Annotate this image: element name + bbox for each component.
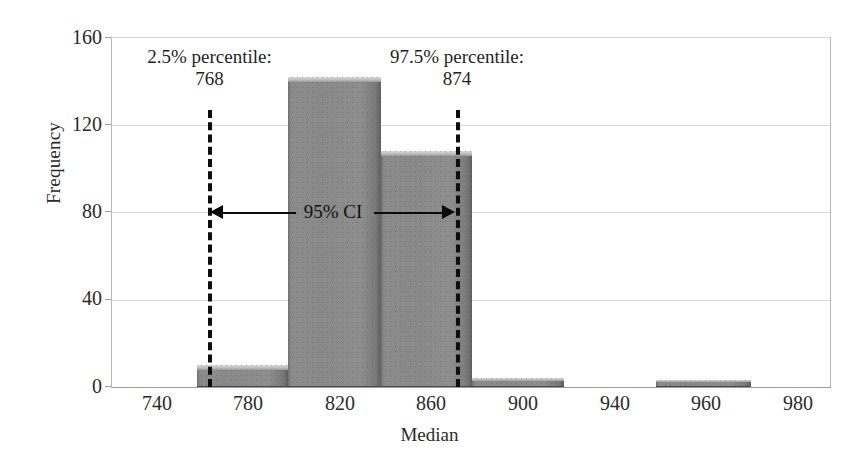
x-tick-label-860: 860	[396, 393, 466, 413]
histogram-bar	[656, 380, 751, 387]
upper-percentile-callout: 97.5% percentile: 874	[346, 46, 568, 91]
y-tick-label-80: 80	[32, 201, 102, 221]
lower-percentile-label: 2.5% percentile:	[147, 46, 272, 67]
lower-percentile-callout: 2.5% percentile: 768	[102, 46, 317, 91]
upper-percentile-line	[456, 110, 460, 387]
bar-texture	[288, 77, 381, 386]
x-tick-label-980: 980	[763, 393, 833, 413]
confidence-interval-label: 95% CI	[288, 202, 378, 222]
confidence-interval-annotation: 95% CI	[208, 202, 458, 222]
gridline-120	[112, 125, 830, 126]
x-axis-title: Median	[0, 424, 859, 446]
histogram-bar	[472, 378, 564, 387]
x-tick-label-740: 740	[122, 393, 192, 413]
y-tick-label-0: 0	[32, 376, 102, 396]
bar-texture	[656, 380, 751, 386]
lower-percentile-line	[208, 110, 212, 387]
histogram-figure: Frequency 160 120 80 40 0	[0, 0, 859, 467]
x-tick-label-900: 900	[488, 393, 558, 413]
arrow-shaft-right	[374, 212, 444, 214]
upper-percentile-label: 97.5% percentile:	[390, 46, 524, 67]
plot-area: 95% CI 2.5% percentile: 768 97.5% percen…	[111, 37, 831, 388]
x-tick-label-820: 820	[305, 393, 375, 413]
arrow-shaft-left	[222, 212, 296, 214]
y-tick-label-120: 120	[32, 114, 102, 134]
histogram-bar	[288, 77, 381, 387]
lower-percentile-value: 768	[102, 68, 317, 90]
y-tick-label-160: 160	[32, 27, 102, 47]
y-tick-label-40: 40	[32, 288, 102, 308]
x-tick-label-780: 780	[213, 393, 283, 413]
arrow-head-right-icon	[442, 205, 455, 219]
x-tick-label-960: 960	[671, 393, 741, 413]
bar-texture	[472, 378, 564, 386]
upper-percentile-value: 874	[346, 68, 568, 90]
x-tick-label-940: 940	[580, 393, 650, 413]
